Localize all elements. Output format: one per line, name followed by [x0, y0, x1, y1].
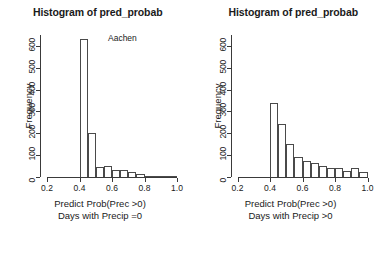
- histogram-bar: [351, 168, 359, 177]
- histogram-bar: [145, 176, 153, 177]
- histogram-bar: [359, 172, 367, 177]
- y-tick-label-right-100: 100: [218, 150, 228, 161]
- histogram-bar: [80, 39, 88, 177]
- x-tick-right-0.2: [238, 178, 239, 182]
- x-tick-right-0.4: [270, 178, 271, 182]
- x-axis-title-line1-right: Predict Prob(Prec >0): [198, 198, 384, 210]
- bars-right: [238, 35, 368, 177]
- x-tick-left-0.2: [47, 178, 48, 182]
- panel-annotation-left: Aachen: [108, 33, 137, 43]
- y-tick-label-left-200: 200: [27, 128, 37, 139]
- x-tick-label-right-0.8: 0.8: [329, 183, 341, 193]
- x-tick-label-right-1: 1.0: [362, 183, 374, 193]
- x-tick-left-0.6: [112, 178, 113, 182]
- y-tick-label-right-600: 600: [218, 40, 228, 51]
- x-tick-label-left-0.4: 0.4: [74, 183, 86, 193]
- y-tick-label-right-500: 500: [218, 62, 228, 73]
- x-tick-label-right-0.4: 0.4: [264, 183, 276, 193]
- x-axis-title-line2-right: Days with Precip >0: [198, 210, 384, 222]
- histogram-bar: [327, 168, 335, 177]
- histogram-bar: [303, 161, 311, 177]
- x-axis-title-line2-left: Days with Precip =0: [7, 210, 193, 222]
- histogram-bar: [311, 163, 319, 177]
- y-tick-label-right-200: 200: [218, 128, 228, 139]
- x-tick-label-right-0.2: 0.2: [232, 183, 244, 193]
- y-axis-line-right: [231, 35, 232, 177]
- histogram-bar: [319, 166, 327, 177]
- x-axis-title-line1-left: Predict Prob(Prec >0): [7, 198, 193, 210]
- y-tick-label-left-300: 300: [27, 106, 37, 117]
- histogram-bar: [161, 176, 169, 177]
- x-tick-label-right-0.6: 0.6: [297, 183, 309, 193]
- x-tick-left-0.8: [145, 178, 146, 182]
- panel-title-left: Histogram of pred_probab: [0, 6, 196, 18]
- histogram-bar: [153, 176, 161, 177]
- histogram-figure: Histogram of pred_probab Frequency Aache…: [0, 0, 391, 261]
- y-tick-label-right-400: 400: [218, 84, 228, 95]
- x-tick-label-left-0.6: 0.6: [106, 183, 118, 193]
- histogram-bar: [128, 172, 136, 177]
- y-tick-label-right-300: 300: [218, 106, 228, 117]
- x-tick-left-1: [177, 178, 178, 182]
- histogram-bar: [343, 171, 351, 177]
- y-tick-label-left-100: 100: [27, 150, 37, 161]
- histogram-bar: [88, 133, 96, 177]
- histogram-panel-right: Histogram of pred_probab Frequency Predi…: [196, 0, 391, 261]
- histogram-bar: [136, 174, 144, 177]
- x-tick-right-1: [368, 178, 369, 182]
- x-tick-label-left-1: 1.0: [171, 183, 183, 193]
- plot-area-right: Frequency Predict Prob(Prec >0) Days wit…: [238, 35, 368, 177]
- histogram-bar: [294, 157, 302, 177]
- x-tick-right-0.8: [335, 178, 336, 182]
- y-tick-label-left-600: 600: [27, 40, 37, 51]
- y-tick-label-left-400: 400: [27, 84, 37, 95]
- x-tick-left-0.4: [80, 178, 81, 182]
- x-tick-label-left-0.8: 0.8: [139, 183, 151, 193]
- y-tick-label-left-0: 0: [27, 172, 37, 183]
- bars-left: [47, 35, 177, 177]
- x-tick-label-left-0.2: 0.2: [41, 183, 53, 193]
- x-axis-title-left: Predict Prob(Prec >0) Days with Precip =…: [7, 198, 193, 221]
- x-axis-title-right: Predict Prob(Prec >0) Days with Precip >…: [198, 198, 384, 221]
- histogram-bar: [270, 103, 278, 177]
- histogram-bar: [120, 170, 128, 177]
- plot-area-left: Frequency Aachen Predict Prob(Prec >0) D…: [47, 35, 177, 177]
- histogram-bar: [169, 176, 177, 177]
- histogram-panel-left: Histogram of pred_probab Frequency Aache…: [0, 0, 196, 261]
- y-tick-label-right-0: 0: [218, 172, 228, 183]
- panel-title-right: Histogram of pred_probab: [196, 6, 391, 18]
- histogram-bar: [96, 167, 104, 177]
- x-tick-right-0.6: [303, 178, 304, 182]
- histogram-bar: [278, 124, 286, 177]
- histogram-bar: [112, 170, 120, 177]
- histogram-bar: [104, 166, 112, 177]
- y-axis-line-left: [40, 35, 41, 177]
- y-tick-label-left-500: 500: [27, 62, 37, 73]
- histogram-bar: [335, 168, 343, 177]
- histogram-bar: [286, 144, 294, 177]
